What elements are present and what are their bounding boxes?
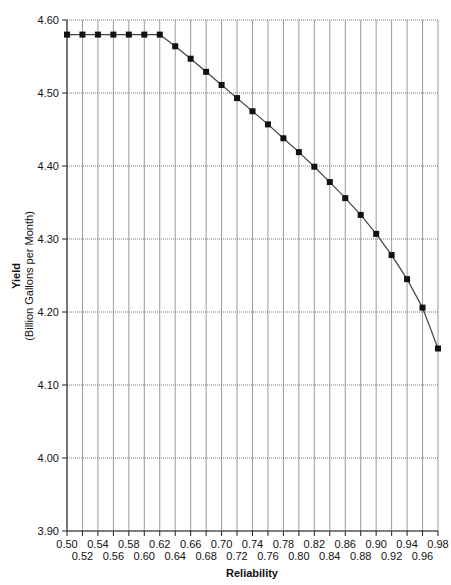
y-tick-label: 4.00 <box>38 452 59 464</box>
x-tick-label: 0.92 <box>381 550 402 562</box>
y-tick-label: 3.90 <box>38 525 59 537</box>
x-tick-label: 0.64 <box>164 550 185 562</box>
x-tick-label: 0.80 <box>288 550 309 562</box>
data-point-marker <box>157 32 163 38</box>
data-point-marker <box>296 149 302 155</box>
data-point-marker <box>141 32 147 38</box>
x-tick-label: 0.98 <box>427 538 448 550</box>
y-tick-label: 4.10 <box>38 379 59 391</box>
x-tick-label: 0.60 <box>134 550 155 562</box>
data-point-marker <box>342 195 348 201</box>
data-point-marker <box>188 56 194 62</box>
data-point-marker <box>373 231 379 237</box>
data-point-marker <box>126 32 132 38</box>
data-point-marker <box>203 69 209 75</box>
x-tick-label: 0.74 <box>242 538 263 550</box>
x-tick-label: 0.76 <box>257 550 278 562</box>
tick-labels: 4.604.504.404.304.204.104.003.900.500.54… <box>38 14 449 562</box>
y-axis-title: Yield <box>10 263 22 289</box>
data-point-marker <box>404 276 410 282</box>
x-tick-label: 0.54 <box>87 538 108 550</box>
x-tick-label: 0.52 <box>72 550 93 562</box>
y-tick-label: 4.50 <box>38 87 59 99</box>
x-tick-label: 0.90 <box>365 538 386 550</box>
x-tick-label: 0.62 <box>149 538 170 550</box>
axes <box>62 20 438 536</box>
x-tick-label: 0.88 <box>350 550 371 562</box>
x-tick-label: 0.66 <box>180 538 201 550</box>
data-point-marker <box>234 95 240 101</box>
x-tick-label: 0.96 <box>412 550 433 562</box>
x-tick-label: 0.94 <box>396 538 417 550</box>
x-tick-label: 0.82 <box>304 538 325 550</box>
x-tick-label: 0.50 <box>56 538 77 550</box>
y-tick-label: 4.20 <box>38 306 59 318</box>
x-tick-label: 0.68 <box>195 550 216 562</box>
x-tick-label: 0.56 <box>103 550 124 562</box>
x-tick-label: 0.58 <box>118 538 139 550</box>
x-tick-label: 0.78 <box>273 538 294 550</box>
data-point-marker <box>311 164 317 170</box>
data-point-marker <box>358 212 364 218</box>
x-tick-label: 0.86 <box>335 538 356 550</box>
data-point-marker <box>95 32 101 38</box>
data-point-marker <box>435 346 441 352</box>
y-tick-label: 4.60 <box>38 14 59 26</box>
data-point-marker <box>79 32 85 38</box>
grid-lines <box>67 20 438 531</box>
data-point-marker <box>172 43 178 49</box>
data-point-marker <box>110 32 116 38</box>
data-point-marker <box>280 135 286 141</box>
y-tick-label: 4.40 <box>38 160 59 172</box>
x-tick-label: 0.72 <box>226 550 247 562</box>
data-point-marker <box>389 252 395 258</box>
data-point-marker <box>250 108 256 114</box>
x-tick-label: 0.84 <box>319 550 340 562</box>
y-tick-label: 4.30 <box>38 233 59 245</box>
data-point-marker <box>327 179 333 185</box>
x-axis-title: Reliability <box>226 567 279 579</box>
data-point-marker <box>420 305 426 311</box>
data-point-marker <box>219 82 225 88</box>
x-tick-label: 0.70 <box>211 538 232 550</box>
data-point-marker <box>265 121 271 127</box>
data-point-marker <box>64 32 70 38</box>
line-chart: 4.604.504.404.304.204.104.003.900.500.54… <box>0 0 451 585</box>
y-axis-subtitle: (Billion Gallons per Month) <box>23 211 35 341</box>
